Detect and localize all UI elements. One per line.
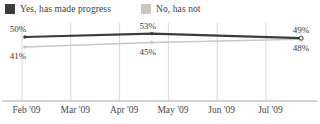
x-tick-label: Feb '09 (13, 105, 41, 115)
x-tick-label: Apr '09 (110, 105, 139, 115)
x-tick-label: Jul '09 (258, 105, 283, 115)
legend-swatch-yes-icon (5, 4, 15, 14)
data-point-label: 50% (10, 24, 27, 34)
data-point-label: 48% (293, 43, 310, 53)
legend-swatch-no-icon (141, 4, 151, 14)
series-line-no (25, 39, 301, 47)
line-chart: Feb '09Mar '09Apr '09May '09Jun '09Jul '… (0, 20, 320, 124)
series-line-yes (25, 34, 301, 38)
legend-item-no: No, has not (141, 4, 201, 14)
legend-item-yes: Yes, has made progress (5, 4, 111, 14)
data-point-label: 49% (293, 25, 310, 35)
legend-label-yes: Yes, has made progress (20, 4, 111, 14)
data-point-marker (23, 45, 26, 48)
data-point-marker (150, 32, 153, 35)
chart-legend: Yes, has made progress No, has not (5, 2, 320, 16)
data-point-label: 41% (10, 51, 27, 61)
legend-label-no: No, has not (156, 4, 201, 14)
x-tick-label: May '09 (157, 105, 188, 115)
data-point-label: 53% (140, 21, 157, 31)
x-tick-label: Jun '09 (208, 105, 235, 115)
data-point-marker (23, 35, 26, 38)
progress-opinion-trend-chart: Yes, has made progress No, has not Feb '… (0, 0, 320, 124)
data-point-marker (299, 36, 303, 40)
x-tick-label: Mar '09 (61, 105, 91, 115)
data-point-label: 45% (140, 47, 157, 57)
data-point-marker (150, 41, 153, 44)
